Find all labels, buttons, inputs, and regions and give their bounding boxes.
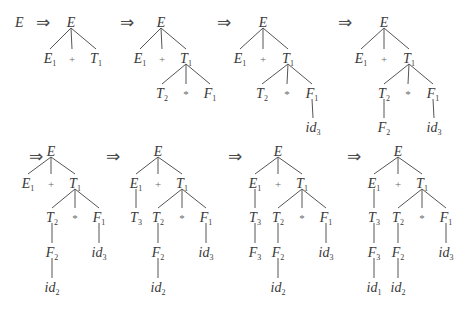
tree-edge [312, 99, 313, 118]
derives-arrow-icon: ⇒ [338, 12, 352, 32]
tree-edge [398, 189, 422, 208]
tree-node-star: * [72, 212, 78, 224]
tree-edge [278, 189, 302, 208]
tree-node-plus: + [381, 53, 387, 65]
tree-node-id3: id3 [427, 120, 442, 137]
tree-node-plus: + [275, 178, 281, 190]
tree-edge [361, 28, 384, 49]
tree-edge [408, 64, 409, 84]
tree-node-e1: E1 [354, 51, 368, 68]
tree-node-star: * [405, 88, 411, 100]
tree-node-f1: F1 [439, 210, 453, 227]
tree-edge [262, 64, 288, 84]
tree-node-f2: F2 [45, 245, 59, 262]
tree-node-t1: T1 [180, 51, 192, 68]
tree-node-f2: F2 [377, 120, 391, 137]
tree-node-t2: T2 [46, 210, 58, 227]
derives-arrow-icon: ⇒ [228, 146, 242, 166]
tree-edge [263, 28, 288, 49]
tree-edge [140, 28, 161, 49]
tree-edge [51, 157, 75, 174]
tree-node-f1: F1 [305, 86, 319, 103]
tree-node-star: * [183, 88, 189, 100]
parse-tree-8: EE1+T1T3T2*F1F3F2id3id1id2 [367, 144, 454, 297]
tree-node-e1: E1 [367, 176, 381, 193]
derives-arrow-icon: ⇒ [120, 12, 134, 32]
derives-arrow-icon: ⇒ [106, 146, 120, 166]
tree-node-t1: T1 [282, 51, 294, 68]
tree-edge [71, 28, 96, 49]
start-symbol: E [14, 15, 24, 30]
tree-node-e: E [66, 15, 76, 30]
tree-node-e: E [273, 144, 283, 159]
tree-node-id1: id1 [367, 280, 382, 297]
derives-arrow-icon: ⇒ [347, 146, 361, 166]
tree-edge [158, 189, 182, 208]
tree-node-t2: T2 [392, 210, 404, 227]
tree-edge [50, 28, 71, 49]
tree-node-t2: T2 [378, 86, 390, 103]
tree-node-star: * [419, 212, 425, 224]
tree-edge [287, 64, 288, 84]
tree-edge [433, 99, 434, 118]
tree-edge [240, 28, 263, 49]
derives-arrow-icon: ⇒ [36, 12, 50, 32]
tree-node-t2: T2 [272, 210, 284, 227]
tree-node-f1: F1 [426, 86, 440, 103]
tree-node-id3: id3 [92, 245, 107, 262]
tree-node-f1: F1 [203, 86, 217, 103]
tree-node-id3: id3 [306, 120, 321, 137]
tree-node-e: E [379, 15, 389, 30]
tree-node-e: E [46, 144, 56, 159]
tree-edge [398, 157, 422, 174]
tree-node-f1: F1 [92, 210, 106, 227]
tree-edge [161, 28, 162, 49]
tree-edge [384, 64, 409, 84]
parse-tree-4: EE1+T1T2*F1F2id3 [354, 15, 442, 137]
tree-node-e: E [393, 144, 403, 159]
parse-tree-6: EE1+T1T3T2*F1F2id3id2 [129, 144, 214, 297]
tree-node-plus: + [159, 53, 165, 65]
parse-tree-5: EE1+T1T2*F1F2id3id2 [21, 144, 107, 297]
tree-node-t2: T2 [152, 210, 164, 227]
tree-node-id2: id2 [271, 280, 286, 297]
tree-node-id3: id3 [439, 245, 454, 262]
tree-node-t3: T3 [130, 210, 142, 227]
tree-node-e1: E1 [43, 51, 57, 68]
tree-node-f2: F2 [151, 245, 165, 262]
derives-arrow-icon: ⇒ [29, 146, 43, 166]
tree-node-f2: F2 [271, 245, 285, 262]
parse-tree-1: EE1+T1 [43, 15, 102, 68]
tree-edge [158, 157, 182, 174]
parse-tree-3: EE1+T1T2*F1id3 [233, 15, 321, 137]
tree-node-t3: T3 [368, 210, 380, 227]
tree-node-e: E [258, 15, 268, 30]
tree-node-e: E [153, 144, 163, 159]
tree-node-t1: T1 [416, 176, 428, 193]
tree-node-t2: T2 [256, 86, 268, 103]
tree-node-e1: E1 [21, 176, 35, 193]
tree-node-f1: F1 [319, 210, 333, 227]
parse-tree-2: EE1+T1T2*F1 [133, 15, 217, 103]
tree-node-f3: F3 [248, 245, 262, 262]
tree-node-id3: id3 [319, 245, 334, 262]
tree-node-id2: id2 [391, 280, 406, 297]
tree-node-star: * [284, 88, 290, 100]
tree-node-t1: T1 [296, 176, 308, 193]
tree-node-e1: E1 [233, 51, 247, 68]
tree-node-plus: + [260, 53, 266, 65]
tree-node-t1: T1 [69, 176, 81, 193]
tree-node-plus: + [48, 178, 54, 190]
tree-edge [161, 28, 186, 49]
tree-node-f2: F2 [391, 245, 405, 262]
tree-node-t1: T1 [176, 176, 188, 193]
tree-node-e1: E1 [133, 51, 147, 68]
tree-node-e1: E1 [248, 176, 262, 193]
tree-node-id3: id3 [199, 245, 214, 262]
tree-node-e: E [156, 15, 166, 30]
tree-node-t1: T1 [403, 51, 415, 68]
tree-edge [384, 28, 409, 49]
tree-node-plus: + [69, 53, 75, 65]
tree-edge [71, 28, 72, 49]
tree-edge [162, 64, 186, 84]
